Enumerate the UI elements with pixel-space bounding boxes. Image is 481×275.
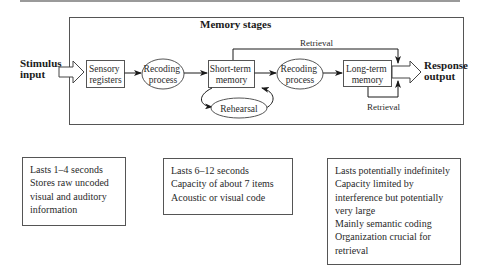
info-line: Capacity of about 7 items <box>171 177 285 190</box>
recoding-process-2-label: Recoding process <box>281 64 320 85</box>
retrieval-bottom-label: Retrieval <box>367 102 400 112</box>
stimulus-input-label: Stimulus input <box>20 57 64 80</box>
info-line: Acoustic or visual code <box>171 191 285 204</box>
short-term-info-box: Lasts 6–12 seconds Capacity of about 7 i… <box>163 158 293 215</box>
sensory-info-box: Lasts 1–4 seconds Stores raw uncoded vis… <box>22 157 126 226</box>
info-line: retrieval <box>335 244 453 257</box>
info-line: very large <box>335 204 453 217</box>
rehearsal-loop-left-arrow <box>201 88 212 107</box>
recoding-process-1-label: Recoding process <box>144 64 183 85</box>
info-line: visual and auditory <box>30 190 118 203</box>
info-line: Stores raw uncoded <box>30 176 118 189</box>
long-term-memory-label: Long-term memory <box>346 64 389 85</box>
short-term-memory-label: Short-term memory <box>210 64 254 85</box>
info-line: Lasts 6–12 seconds <box>171 164 285 177</box>
info-line: Organization crucial for <box>335 230 453 243</box>
diagram-title: Memory stages <box>200 18 272 30</box>
info-line: Lasts potentially indefinitely <box>335 164 453 177</box>
sensory-registers-label: Sensory registers <box>89 64 122 85</box>
info-line: interference but potentially <box>335 191 453 204</box>
retrieval-top-label: Retrieval <box>300 38 333 48</box>
info-line: information <box>30 203 118 216</box>
info-line: Capacity limited by <box>335 177 453 190</box>
long-term-info-box: Lasts potentially indefinitely Capacity … <box>327 158 461 265</box>
info-line: Mainly semantic coding <box>335 217 453 230</box>
memory-stages-diagram: Memory stages Stimulus input Sensory reg… <box>0 0 481 140</box>
rehearsal-label: Rehearsal <box>220 104 258 114</box>
output-arrow-icon <box>392 61 421 83</box>
info-line: Lasts 1–4 seconds <box>30 163 118 176</box>
